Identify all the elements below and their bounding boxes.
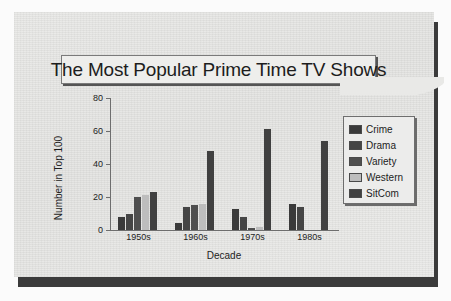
bar xyxy=(264,129,271,230)
bar-group xyxy=(118,98,158,230)
y-axis-tick xyxy=(106,131,111,132)
y-axis-tick-label: 20 xyxy=(93,192,103,202)
legend-item: SitCom xyxy=(349,185,414,201)
bar xyxy=(248,228,255,230)
bar xyxy=(256,227,263,230)
bar-chart: Number in Top 100 Decade 020406080 1950s… xyxy=(74,90,354,265)
legend-label: Drama xyxy=(366,140,396,151)
legend-label: Crime xyxy=(366,124,393,135)
legend-swatch xyxy=(349,189,362,198)
y-axis-tick xyxy=(106,230,111,231)
bar xyxy=(126,214,133,231)
y-axis-tick-label: 40 xyxy=(93,159,103,169)
bar xyxy=(199,204,206,230)
y-axis-tick xyxy=(106,164,111,165)
bar xyxy=(240,217,247,230)
legend-label: Western xyxy=(366,172,403,183)
x-axis-label: Decade xyxy=(110,250,338,261)
y-axis-tick xyxy=(106,98,111,99)
scanned-page: The Most Popular Prime Time TV Shows Num… xyxy=(0,0,451,301)
x-axis-tick-label: 1970s xyxy=(224,232,281,242)
legend-label: Variety xyxy=(366,156,396,167)
chart-title-box: The Most Popular Prime Time TV Shows xyxy=(61,55,376,84)
legend-swatch xyxy=(349,141,362,150)
bar-group xyxy=(289,98,329,230)
y-axis-tick-label: 0 xyxy=(98,225,103,235)
legend-item: Crime xyxy=(349,121,414,137)
bar xyxy=(321,141,328,230)
bar xyxy=(232,209,239,230)
chart-legend: CrimeDramaVarietyWesternSitCom xyxy=(343,116,415,204)
legend-swatch xyxy=(349,173,362,182)
bar-group xyxy=(175,98,215,230)
legend-item: Western xyxy=(349,169,414,185)
legend-label: SitCom xyxy=(366,188,399,199)
bar xyxy=(142,195,149,230)
y-axis-tick xyxy=(106,197,111,198)
bar xyxy=(150,192,157,230)
legend-item: Variety xyxy=(349,153,414,169)
chart-title: The Most Popular Prime Time TV Shows xyxy=(51,59,387,81)
paper-sheet: The Most Popular Prime Time TV Shows Num… xyxy=(14,12,434,277)
bar xyxy=(297,207,304,230)
bar xyxy=(183,207,190,230)
plot-frame: 020406080 xyxy=(110,98,339,231)
y-axis-tick-label: 80 xyxy=(93,93,103,103)
bar xyxy=(207,151,214,230)
bar xyxy=(191,205,198,230)
y-axis-label: Number in Top 100 xyxy=(53,135,64,219)
y-axis-tick-label: 60 xyxy=(93,126,103,136)
x-axis-tick-label: 1980s xyxy=(281,232,338,242)
bar xyxy=(118,217,125,230)
bar xyxy=(134,197,141,230)
legend-item: Drama xyxy=(349,137,414,153)
legend-swatch xyxy=(349,157,362,166)
x-axis-tick-label: 1950s xyxy=(110,232,167,242)
bar xyxy=(175,223,182,230)
x-axis-tick-label: 1960s xyxy=(167,232,224,242)
bar-group xyxy=(232,98,272,230)
legend-swatch xyxy=(349,125,362,134)
bar xyxy=(289,204,296,230)
